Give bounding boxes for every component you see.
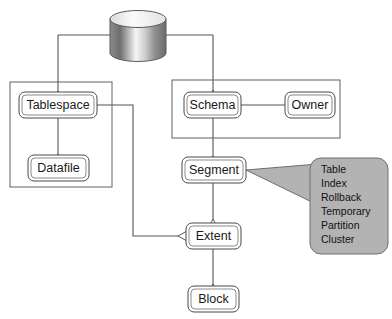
callout-segment-types[interactable]: Table Index Rollback Temporary Partition… [246, 158, 388, 254]
node-schema[interactable]: Schema [184, 92, 241, 118]
node-datafile[interactable]: Datafile [28, 155, 89, 181]
node-schema-label: Schema [190, 98, 236, 112]
edge-tablespace-to-extent [97, 105, 178, 236]
database-cylinder-top [110, 11, 166, 28]
callout-item-temporary: Temporary [321, 205, 371, 217]
node-block[interactable]: Block [188, 286, 239, 312]
node-tablespace-label: Tablespace [26, 98, 89, 112]
callout-item-cluster: Cluster [321, 233, 355, 245]
node-segment-label: Segment [189, 163, 240, 177]
storage-hierarchy-diagram: Table Index Rollback Temporary Partition… [0, 0, 392, 319]
node-owner[interactable]: Owner [285, 92, 335, 118]
node-extent[interactable]: Extent [186, 223, 241, 249]
callout-item-table: Table [321, 163, 346, 175]
node-extent-label: Extent [196, 229, 232, 243]
node-owner-label: Owner [292, 98, 329, 112]
callout-item-rollback: Rollback [321, 191, 362, 203]
node-block-label: Block [198, 292, 229, 306]
node-database[interactable] [110, 11, 166, 62]
node-tablespace[interactable]: Tablespace [19, 92, 97, 118]
diagram-canvas: Table Index Rollback Temporary Partition… [0, 0, 392, 319]
callout-item-index: Index [321, 177, 347, 189]
node-datafile-label: Datafile [37, 161, 79, 175]
node-segment[interactable]: Segment [182, 157, 246, 183]
callout-tail [246, 164, 318, 205]
callout-item-partition: Partition [321, 219, 360, 231]
